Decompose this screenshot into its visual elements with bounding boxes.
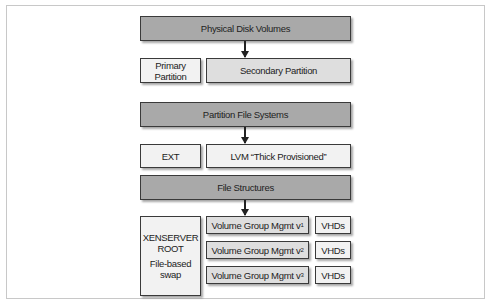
partition-file-systems-label: Partition File Systems bbox=[203, 109, 288, 120]
lvm-label: LVM “Thick Provisioned” bbox=[231, 151, 327, 162]
volume-group-label: Volume Group Mgmt v bbox=[212, 220, 301, 231]
volume-group-label: Volume Group Mgmt v bbox=[212, 245, 301, 256]
volume-group-box-3: Volume Group Mgmt v3 bbox=[206, 266, 309, 284]
file-structures-label: File Structures bbox=[217, 182, 274, 193]
swap-label: swap bbox=[160, 269, 181, 280]
vhds-box-1: VHDs bbox=[315, 216, 351, 234]
file-structures-box: File Structures bbox=[140, 175, 351, 200]
volume-group-box-2: Volume Group Mgmt v2 bbox=[206, 241, 309, 259]
secondary-partition-box: Secondary Partition bbox=[206, 58, 351, 83]
root-label: ROOT bbox=[157, 243, 183, 254]
partition-file-systems-box: Partition File Systems bbox=[140, 102, 351, 127]
primary-partition-box: Primary Partition bbox=[140, 58, 201, 83]
lvm-box: LVM “Thick Provisioned” bbox=[206, 144, 351, 168]
primary-partition-label-line1: Primary bbox=[155, 60, 186, 71]
arrow-down-icon bbox=[244, 127, 246, 143]
ext-label: EXT bbox=[162, 151, 180, 162]
primary-partition-label-line2: Partition bbox=[154, 71, 186, 82]
xenserver-label: XENSERVER bbox=[143, 232, 199, 243]
physical-disk-volumes-box: Physical Disk Volumes bbox=[140, 16, 351, 41]
vhds-box-2: VHDs bbox=[315, 241, 351, 259]
vhds-label: VHDs bbox=[321, 270, 345, 281]
volume-group-box-1: Volume Group Mgmt v1 bbox=[206, 216, 309, 234]
arrow-down-icon bbox=[244, 41, 246, 57]
file-based-label: File-based bbox=[150, 258, 191, 269]
physical-disk-volumes-label: Physical Disk Volumes bbox=[201, 23, 290, 34]
vhds-label: VHDs bbox=[321, 220, 345, 231]
secondary-partition-label: Secondary Partition bbox=[240, 65, 317, 76]
vhds-label: VHDs bbox=[321, 245, 345, 256]
xenserver-root-box: XENSERVER ROOT File-based swap bbox=[140, 216, 201, 296]
volume-group-label: Volume Group Mgmt v bbox=[212, 270, 301, 281]
arrow-down-icon bbox=[244, 200, 246, 215]
vhds-box-3: VHDs bbox=[315, 266, 351, 284]
ext-box: EXT bbox=[140, 144, 201, 168]
